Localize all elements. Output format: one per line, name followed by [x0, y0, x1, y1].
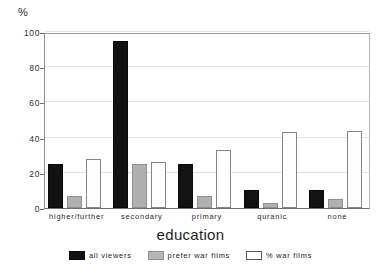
y-axis-tick-mark: [40, 209, 44, 210]
x-axis-category-label: none: [328, 212, 348, 221]
bar-group: [45, 34, 110, 208]
legend-label: prefer war films: [168, 251, 230, 260]
plot-area: [44, 33, 370, 209]
bar: [244, 190, 259, 208]
y-axis-tick-label: 20: [6, 169, 40, 179]
legend-swatch-icon: [246, 251, 262, 260]
bar: [113, 41, 128, 208]
bar-group: [241, 34, 306, 208]
x-axis-title: education: [0, 226, 381, 243]
bar: [263, 203, 278, 208]
legend-label: all viewers: [89, 251, 132, 260]
y-axis-unit-label: %: [18, 6, 28, 18]
legend-swatch-icon: [69, 251, 85, 260]
y-axis-tick-labels: 020406080100: [0, 33, 40, 209]
legend-label: % war films: [266, 251, 312, 260]
bar: [178, 164, 193, 208]
bar-group: [175, 34, 240, 208]
bar-group: [110, 34, 175, 208]
bar: [282, 132, 297, 208]
bar: [48, 164, 63, 208]
x-axis-category-label: primary: [192, 212, 222, 221]
bar: [216, 150, 231, 208]
y-axis-tick-label: 40: [6, 134, 40, 144]
y-axis-tick-label: 60: [6, 98, 40, 108]
bar-group: [306, 34, 371, 208]
legend-swatch-icon: [148, 251, 164, 260]
bar: [132, 164, 147, 208]
bar-chart: % 020406080100 higher/furthersecondarypr…: [0, 0, 381, 274]
x-axis-category-label: quranic: [257, 212, 287, 221]
x-axis-category-label: higher/further: [49, 212, 104, 221]
legend-item: prefer war films: [148, 251, 230, 260]
bar: [347, 131, 362, 208]
y-axis-tick-label: 80: [6, 63, 40, 73]
bar: [67, 196, 82, 208]
x-axis-category-label: secondary: [121, 212, 162, 221]
bars-layer: [45, 34, 369, 208]
bar: [197, 196, 212, 208]
bar: [151, 162, 166, 208]
legend-item: % war films: [246, 251, 312, 260]
gridline: [45, 31, 369, 32]
legend-item: all viewers: [69, 251, 132, 260]
y-axis-tick-label: 100: [6, 28, 40, 38]
y-axis-tick-label: 0: [6, 204, 40, 214]
bar: [86, 159, 101, 208]
bar: [328, 199, 343, 208]
bar: [309, 190, 324, 208]
chart-legend: all viewersprefer war films% war films: [0, 251, 381, 260]
